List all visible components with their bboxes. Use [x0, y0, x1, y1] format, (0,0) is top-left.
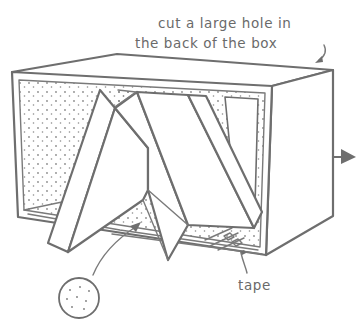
- tape-callout: tape: [238, 253, 271, 293]
- tape-label: tape: [238, 277, 271, 293]
- box-illustration: cut a large hole in the back of the box: [0, 0, 363, 335]
- hole-instruction-note: cut a large hole in the back of the box: [135, 15, 325, 63]
- arrow-right-icon: [333, 149, 356, 164]
- box-right-face: [266, 70, 333, 255]
- note-line-1: cut a large hole in: [158, 15, 292, 31]
- note-line-2: the back of the box: [135, 35, 277, 51]
- dotted-circle-icon: [59, 278, 99, 318]
- pointer-arrowhead-icon: [315, 56, 323, 63]
